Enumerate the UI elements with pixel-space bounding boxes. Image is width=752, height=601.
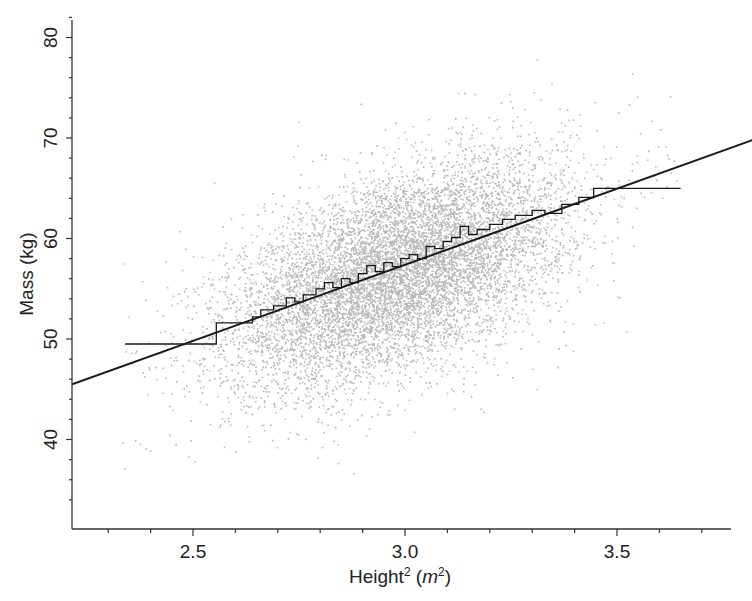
fit-lines — [72, 140, 752, 384]
y-axis-title: Mass (kg) — [16, 232, 37, 315]
axes: 2.53.03.5 4050607080 Height2 (m2) Mass (… — [16, 17, 731, 587]
y-tick-label: 50 — [40, 328, 61, 349]
y-tick-label: 80 — [40, 27, 61, 48]
x-tick-label: 3.0 — [392, 541, 418, 562]
x-axis-title: Height2 (m2) — [349, 565, 451, 587]
x-tick-label: 3.5 — [604, 541, 630, 562]
y-tick-label: 70 — [40, 127, 61, 148]
y-axis-ticks: 4050607080 — [40, 17, 72, 499]
y-tick-label: 40 — [40, 429, 61, 450]
regression-line — [72, 140, 752, 384]
scatter-chart: 2.53.03.5 4050607080 Height2 (m2) Mass (… — [0, 0, 752, 601]
x-axis-ticks: 2.53.03.5 — [108, 529, 702, 562]
y-tick-label: 60 — [40, 228, 61, 249]
x-tick-label: 2.5 — [180, 541, 206, 562]
